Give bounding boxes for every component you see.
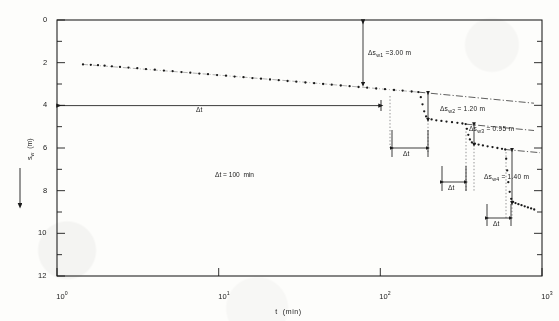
delta-t-bracket-3-label: Δt [493,221,499,228]
y-tick-12: 12 [38,272,46,280]
delta-sw3-symbol: Δs [469,125,477,132]
delta-sw4-symbol: Δs [484,173,492,180]
delta-t-caption: Δt = 100 min [215,172,254,179]
delta-t-main-label: Δt [196,107,202,114]
delta-t-bracket-1 [392,130,428,157]
y-tick-4: 4 [43,101,47,109]
delta-sw4-value: = 1.40 m [501,173,529,180]
x-tick-1e0: 100 [48,283,68,307]
x-axis-symbol: t [275,308,278,315]
x-tick-1e0-mantissa: 10 [56,291,64,300]
x-tick-1e1-exp: 1 [227,290,230,296]
delta-sw2-symbol: Δs [440,105,448,112]
delta-sw1-index: 1 [380,52,383,58]
y-axis-symbol: s [26,157,33,161]
x-tick-1e0-exp: 0 [65,290,68,296]
axis-frame [57,20,542,276]
delta-t-bracket-2-label: Δt [448,185,454,192]
delta-sw2-index: 2 [452,108,455,114]
y-tick-10: 10 [38,229,46,237]
axis-ticks [57,20,542,276]
y-tick-0: 0 [43,16,47,24]
delta-sw4-label: Δsw4 = 1.40 m [476,167,529,189]
figure-root: 0 2 4 6 8 10 12 100 101 102 103 t (min) … [0,0,559,321]
x-tick-1e3-mantissa: 10 [541,291,549,300]
x-tick-1e3-exp: 3 [550,290,553,296]
x-axis-label: t (min) [265,301,302,321]
x-tick-1e1-mantissa: 10 [218,291,226,300]
delta-t-bracket-1-label: Δt [403,151,409,158]
data-series-step-1 [82,63,420,93]
y-tick-8: 8 [43,187,47,195]
delta-sw4-index: 4 [496,176,499,182]
y-tick-6: 6 [43,144,47,152]
x-axis-unit: (min) [283,308,302,315]
y-axis-unit: (m) [26,138,33,149]
delta-sw2-value: = 1.20 m [457,105,485,112]
delta-sw3-index: 3 [481,128,484,134]
x-tick-1e2: 102 [371,283,391,307]
y-axis-subscript: w [29,153,35,157]
x-tick-1e2-mantissa: 10 [379,291,387,300]
x-tick-1e1: 101 [210,283,230,307]
delta-sw1-label: Δsw1 =3.00 m [360,43,411,65]
y-tick-2: 2 [43,59,47,67]
delta-sw1-value: =3.00 m [385,49,411,56]
y-axis-label: sw (m) [26,138,35,160]
delta-sw1-symbol: Δs [368,49,376,56]
delta-sw3-value: = 0.95 m [486,125,514,132]
drawdown-plot [0,0,559,321]
delta-sw2-label: Δsw2 = 1.20 m [432,99,485,121]
x-tick-1e3: 103 [533,283,553,307]
delta-sw3-label: Δsw3 = 0.95 m [461,119,514,141]
x-tick-1e2-exp: 2 [388,290,391,296]
